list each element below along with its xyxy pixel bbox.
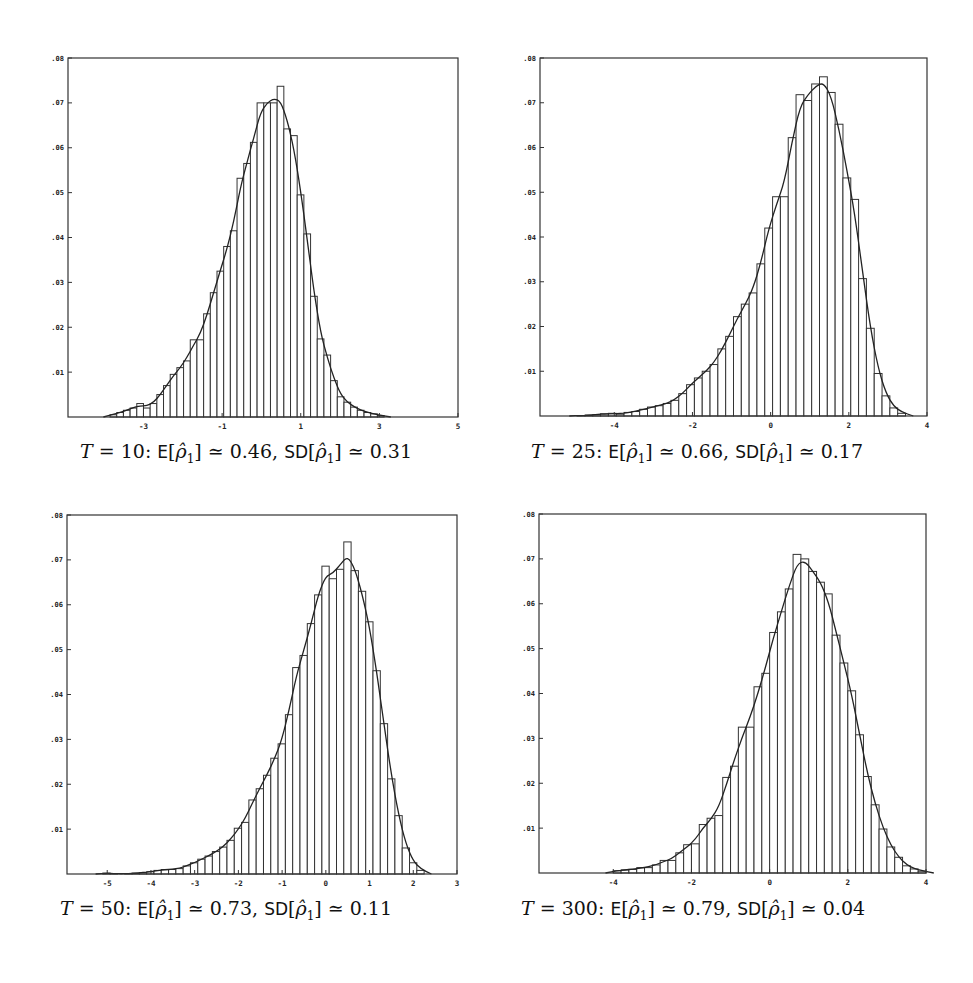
histogram-bar: [754, 687, 762, 873]
histogram-bar: [676, 853, 684, 873]
x-tick-label: 4: [924, 878, 929, 887]
histogram-bar: [903, 866, 911, 873]
y-tick-label: .02: [522, 780, 535, 788]
y-tick-label: .05: [522, 645, 535, 653]
histogram-bar: [668, 860, 676, 873]
caption-t300: T = 300: E[ρ̂1] ≃ 0.79, SD[ρ̂1] ≃ 0.04: [521, 897, 865, 923]
x-tick-label: -2: [687, 878, 696, 887]
caption-t300-E: 0.79: [683, 897, 725, 919]
histogram-bar: [715, 816, 723, 873]
histogram-bar: [793, 554, 801, 873]
caption-t300-T: 300: [562, 897, 598, 919]
histogram-bar: [770, 632, 778, 873]
histogram-bar: [840, 663, 848, 873]
y-tick-label: .06: [522, 600, 535, 608]
histogram-bar: [762, 673, 770, 873]
x-tick-label: -4: [609, 878, 619, 887]
histogram-bar: [863, 777, 871, 873]
y-tick-label: .01: [522, 825, 535, 833]
histogram-bar: [731, 766, 739, 873]
histogram-bar: [652, 865, 660, 873]
histogram-bar: [824, 594, 832, 873]
y-tick-label: .03: [522, 735, 535, 743]
x-tick-label: 2: [846, 878, 851, 887]
histogram-bar: [832, 635, 840, 873]
y-tick-label: .07: [522, 555, 535, 563]
histogram-bar: [879, 829, 887, 873]
histogram-bar: [707, 818, 715, 873]
histogram-bar: [809, 571, 817, 873]
y-tick-label: .04: [522, 690, 535, 698]
histogram-bar: [777, 612, 785, 873]
histogram-panel-t300: .01.02.03.04.05.06.07.08-4-2024 T = 300:…: [0, 0, 973, 983]
histogram-bar: [801, 559, 809, 873]
histogram-bar: [691, 844, 699, 873]
histogram-bar: [848, 691, 856, 873]
histogram-t300-plot: .01.02.03.04.05.06.07.08-4-2024: [0, 0, 973, 983]
histogram-bars: [613, 554, 926, 873]
x-tick-label: 0: [767, 878, 772, 887]
histogram-bar: [746, 727, 754, 873]
histogram-bar: [856, 735, 864, 873]
histogram-bar: [817, 582, 825, 873]
histogram-bar: [785, 589, 793, 873]
histogram-bar: [887, 847, 895, 873]
y-tick-label: .08: [522, 511, 535, 519]
histogram-bar: [738, 727, 746, 873]
histogram-bar: [871, 805, 879, 873]
histogram-bar: [645, 868, 653, 873]
caption-t300-SD: 0.04: [823, 897, 865, 919]
